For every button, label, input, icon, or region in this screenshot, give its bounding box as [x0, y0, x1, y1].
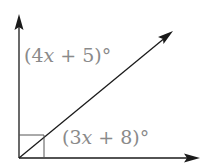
upper-angle-prefix: (4: [24, 44, 44, 66]
upper-angle-variable: x: [44, 44, 55, 66]
upper-angle-label: (4x + 5)°: [24, 46, 111, 65]
lower-angle-suffix: + 8)°: [92, 126, 149, 148]
lower-angle-variable: x: [82, 126, 93, 148]
upper-angle-suffix: + 5)°: [54, 44, 111, 66]
lower-angle-label: (3x + 8)°: [62, 128, 149, 147]
lower-angle-prefix: (3: [62, 126, 82, 148]
